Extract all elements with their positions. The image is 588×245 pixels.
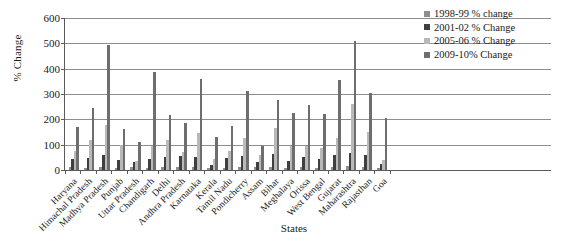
y-axis-title: % Change: [11, 13, 23, 103]
x-axis-category-text: Goa: [371, 176, 389, 194]
bar: [92, 108, 95, 170]
bar: [123, 129, 126, 170]
y-axis-tick-label: 200: [44, 114, 61, 125]
legend-label: 1998-99 % change: [434, 7, 513, 21]
bar-groups: [65, 18, 391, 170]
bar-group: [344, 18, 359, 170]
x-axis-title: States: [0, 222, 588, 234]
plot-area: 0100200300400500600: [64, 18, 391, 171]
bar-group: [205, 18, 220, 170]
bar-group: [159, 18, 174, 170]
bar-group: [128, 18, 143, 170]
bar-group: [189, 18, 204, 170]
legend-swatch-icon: [424, 11, 430, 17]
bar: [277, 100, 280, 170]
bar: [261, 146, 264, 170]
bar: [292, 113, 295, 170]
bar-group: [174, 18, 189, 170]
bar: [153, 72, 156, 170]
bar: [369, 93, 372, 170]
bar-group: [266, 18, 281, 170]
legend-label: 2009-10% Change: [434, 48, 512, 62]
legend-item: 2009-10% Change: [424, 48, 515, 62]
bar-group: [297, 18, 312, 170]
bar-group: [282, 18, 297, 170]
bar-group: [236, 18, 251, 170]
legend-swatch-icon: [424, 24, 430, 30]
legend-swatch-icon: [424, 52, 430, 58]
y-axis-tick-label: 0: [55, 165, 61, 176]
bar: [200, 79, 203, 170]
bar: [385, 118, 388, 170]
legend-label: 2001-02 % Change: [434, 21, 515, 35]
y-axis-tick-label: 400: [44, 63, 61, 74]
chart-legend: 1998-99 % change2001-02 % Change2005-06 …: [424, 7, 515, 61]
bar-group: [112, 18, 127, 170]
bar-group: [251, 18, 266, 170]
y-axis-tick-label: 300: [44, 89, 61, 100]
legend-item: 2001-02 % Change: [424, 21, 515, 35]
bar-group: [313, 18, 328, 170]
legend-label: 2005-06 % Change: [434, 34, 515, 48]
legend-swatch-icon: [424, 38, 430, 44]
bar-group: [374, 18, 389, 170]
bar-group: [220, 18, 235, 170]
bar-group: [328, 18, 343, 170]
bar-group: [143, 18, 158, 170]
bar: [246, 91, 249, 170]
bar: [308, 105, 311, 170]
y-axis-tick-label: 500: [44, 38, 61, 49]
bar-group: [81, 18, 96, 170]
bar: [184, 123, 187, 170]
bar: [354, 41, 357, 170]
bar: [138, 142, 141, 170]
bar: [169, 115, 172, 170]
bar: [76, 127, 79, 170]
bar-chart: % Change 0100200300400500600 HaryanaHima…: [0, 0, 588, 245]
y-axis-tick-label: 100: [44, 139, 61, 150]
bar: [215, 137, 218, 170]
bar: [231, 126, 234, 170]
bar-group: [359, 18, 374, 170]
y-axis-tick-label: 600: [44, 13, 61, 24]
bar: [323, 114, 326, 170]
bar-group: [97, 18, 112, 170]
bar: [338, 80, 341, 170]
legend-item: 1998-99 % change: [424, 7, 515, 21]
legend-item: 2005-06 % Change: [424, 34, 515, 48]
bar: [107, 45, 110, 170]
bar-group: [66, 18, 81, 170]
